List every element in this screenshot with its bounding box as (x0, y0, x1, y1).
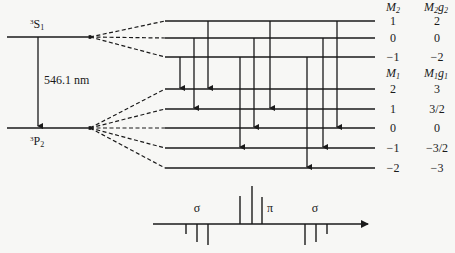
lower-m-value: −2 (387, 161, 400, 175)
lower-dash-line (90, 128, 165, 168)
transition-arrows (180, 21, 337, 167)
upper-dash-line (90, 37, 165, 38)
lower-m-value: 2 (390, 82, 396, 96)
lower-m-value: 0 (390, 121, 396, 135)
upper-dash-line (90, 37, 165, 57)
lower-dash-line (90, 109, 165, 128)
upper-m-header: M2 (385, 0, 400, 15)
spectrum-pattern: σπσ (153, 186, 368, 245)
upper-mg-header: M2g2 (423, 0, 448, 15)
zeeman-diagram: 3S1 3P2 546.1 nm 1200−1−22313/200−1−3/2−… (0, 0, 455, 253)
lower-mg-value: 3/2 (429, 102, 444, 116)
polarization-label: σ (194, 201, 201, 215)
upper-m-value: −1 (387, 50, 400, 64)
lower-term-label: 3P2 (30, 134, 44, 149)
upper-term-group: 3S1 (7, 17, 88, 37)
quantum-number-labels: 1200−1−22313/200−1−3/2−2−3 (387, 14, 448, 175)
polarization-label: π (267, 201, 273, 215)
upper-m-value: 0 (390, 31, 396, 45)
lower-dash-line (90, 128, 165, 148)
lower-m-header: M1 (385, 66, 400, 81)
lower-m-value: 1 (390, 102, 396, 116)
lower-term-group: 3P2 (7, 128, 88, 149)
polarization-label: σ (312, 201, 319, 215)
lower-mg-value: −3 (431, 161, 444, 175)
lower-mg-value: −3/2 (426, 141, 448, 155)
wavelength-label: 546.1 nm (44, 73, 90, 87)
lower-dash-line (90, 89, 165, 128)
upper-mg-value: 0 (434, 31, 440, 45)
upper-m-value: 1 (390, 14, 396, 28)
upper-mg-value: −2 (431, 50, 444, 64)
upper-term-label: 3S1 (30, 17, 44, 32)
lower-mg-value: 0 (434, 121, 440, 135)
upper-dash-line (90, 21, 165, 37)
splitting-dashes (88, 21, 165, 168)
lower-m-value: −1 (387, 141, 400, 155)
lower-mg-value: 3 (434, 82, 440, 96)
upper-mg-value: 2 (434, 14, 440, 28)
lower-mg-header: M1g1 (423, 66, 448, 81)
